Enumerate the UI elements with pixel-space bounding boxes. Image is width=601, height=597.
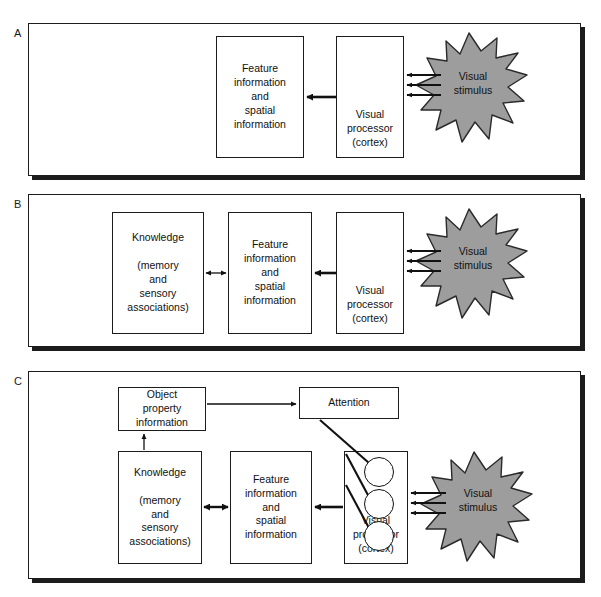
node-visual-processor-a: Visualprocessor(cortex) [336, 36, 404, 158]
node-label: Visualprocessor(cortex) [344, 284, 396, 326]
node-label: Attention [325, 396, 372, 410]
panel-a [28, 23, 581, 176]
node-label: Knowledge (memoryandsensoryassociations) [126, 466, 193, 549]
node-feature-information-a: Featureinformationandspatialinformation [216, 36, 304, 158]
node-feature-information-c: Featureinformationandspatialinformation [230, 451, 312, 564]
unit-2-c [364, 489, 394, 519]
node-label: Objectpropertyinformation [133, 388, 191, 430]
panel-label-b: B [14, 198, 22, 210]
node-feature-information-b: Featureinformationandspatialinformation [228, 212, 312, 334]
node-attention-c: Attention [299, 387, 399, 419]
node-knowledge-c: Knowledge (memoryandsensoryassociations) [118, 451, 202, 564]
unit-1-c [364, 457, 394, 487]
node-object-property-information-c: Objectpropertyinformation [118, 387, 206, 431]
node-label: Featureinformationandspatialinformation [242, 473, 300, 542]
node-visual-stimulus-label-a: Visualstimulus [437, 70, 509, 97]
node-label: Featureinformationandspatialinformation [241, 238, 299, 307]
node-visual-processor-b: Visualprocessor(cortex) [336, 212, 404, 334]
unit-3-c [364, 521, 394, 551]
node-label: Visualprocessor(cortex) [344, 108, 396, 150]
node-label: Featureinformationandspatialinformation [231, 62, 289, 131]
node-visual-stimulus-label-b: Visualstimulus [437, 245, 509, 272]
node-label: Knowledge (memoryandsensoryassociations) [124, 231, 191, 314]
panel-label-c: C [14, 375, 22, 387]
panel-label-a: A [14, 27, 22, 39]
node-visual-stimulus-label-c: Visualstimulus [442, 487, 514, 514]
node-knowledge-b: Knowledge (memoryandsensoryassociations) [112, 212, 204, 334]
figure-root: A Featureinformationandspatialinformatio… [0, 0, 601, 597]
